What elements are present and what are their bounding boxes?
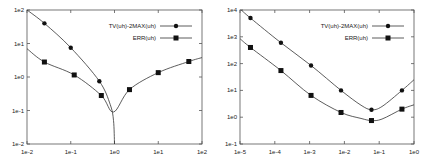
x-tick-label: 1e-1	[65, 149, 78, 155]
circle-marker	[400, 88, 404, 92]
square-marker	[248, 45, 253, 50]
y-tick-label: 1e2	[227, 61, 238, 67]
y-tick-label: 1e0	[227, 114, 238, 120]
square-marker	[278, 68, 283, 73]
plot-frame	[240, 10, 414, 144]
y-tick-label: 1e-1	[12, 108, 25, 114]
square-marker	[186, 59, 191, 64]
circle-marker	[309, 63, 313, 67]
circle-marker	[339, 88, 343, 92]
square-marker	[369, 118, 374, 123]
legend-label: ERR(uh)	[345, 35, 368, 41]
x-tick-label: 1e-2	[21, 149, 34, 155]
circle-marker	[248, 16, 252, 20]
square-marker	[399, 107, 404, 112]
x-tick-label: 1e-3	[304, 149, 317, 155]
legend-square-marker-icon	[386, 36, 391, 41]
y-tick-label: 1e2	[14, 7, 25, 13]
plot-frame	[27, 10, 202, 144]
legend-square-marker-icon	[174, 36, 179, 41]
circle-marker	[279, 41, 283, 45]
x-tick-label: 1e0	[409, 149, 420, 155]
chart-left-tv-err-vs-h: 1e-21e-11e01e11e21e-21e-11e01e11e2TV(uh)…	[0, 0, 212, 163]
square-marker	[42, 60, 47, 65]
legend-circle-marker-icon	[386, 24, 390, 28]
y-tick-label: 1e-2	[12, 141, 25, 147]
x-tick-label: 1e-5	[234, 149, 247, 155]
square-marker	[156, 70, 161, 75]
legend-label: ERR(uh)	[133, 35, 156, 41]
circle-marker	[42, 21, 46, 25]
series-line	[240, 39, 414, 121]
x-tick-label: 1e1	[153, 149, 164, 155]
square-marker	[309, 93, 314, 98]
series-line	[27, 10, 115, 144]
x-tick-label: 1e-1	[373, 149, 386, 155]
circle-marker	[97, 79, 101, 83]
y-tick-label: 1e-1	[225, 141, 238, 147]
y-tick-label: 1e0	[14, 74, 25, 80]
x-tick-label: 1e-4	[269, 149, 282, 155]
square-marker	[72, 72, 77, 77]
circle-marker	[369, 108, 373, 112]
square-marker	[99, 93, 104, 98]
square-marker	[127, 87, 132, 92]
x-tick-label: 1e0	[109, 149, 120, 155]
y-tick-label: 1e4	[227, 7, 238, 13]
square-marker	[339, 110, 344, 115]
legend-label: TV(uh)-2MAX(uh)	[321, 23, 368, 29]
x-tick-label: 1e-2	[338, 149, 351, 155]
y-tick-label: 1e1	[227, 87, 238, 93]
legend-label: TV(uh)-2MAX(uh)	[109, 23, 156, 29]
y-tick-label: 1e3	[227, 34, 238, 40]
chart-right-tv-err-vs-h: 1e-51e-41e-31e-21e-11e01e-11e01e11e21e31…	[212, 0, 424, 163]
circle-marker	[69, 45, 73, 49]
y-tick-label: 1e1	[14, 41, 25, 47]
series-line	[27, 49, 202, 112]
x-tick-label: 1e2	[197, 149, 208, 155]
legend-circle-marker-icon	[174, 24, 178, 28]
